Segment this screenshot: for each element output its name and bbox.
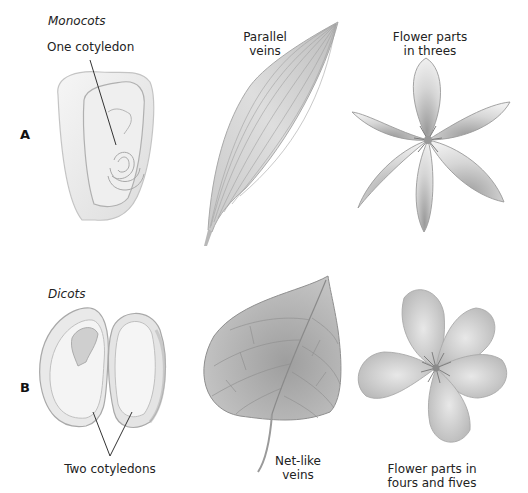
row-a-marker: A: [20, 127, 30, 142]
two-cotyledons-label: Two cotyledons: [64, 462, 156, 476]
flower-parts-fours-fives-line2: fours and fives: [387, 476, 476, 490]
flower-parts-threes-line2: in threes: [393, 44, 467, 58]
parallel-veins-label-line1: Parallel: [243, 30, 287, 44]
flower-parts-threes-line1: Flower parts: [393, 30, 467, 44]
dicots-group-title: Dicots: [48, 287, 85, 301]
net-like-veins-label: Net-like veins: [275, 454, 321, 482]
flower-parts-fours-fives-label: Flower parts in fours and fives: [387, 462, 476, 490]
one-cotyledon-label: One cotyledon: [47, 40, 134, 54]
net-like-veins-line1: Net-like: [275, 454, 321, 468]
corn-seed-illustration: [58, 60, 154, 220]
parallel-veins-label-line2: veins: [243, 44, 287, 58]
illustrations: [0, 0, 528, 493]
net-like-veins-line2: veins: [275, 468, 321, 482]
net-vein-leaf-illustration: [204, 276, 341, 472]
bean-seed-illustration: [40, 308, 166, 456]
row-b-marker: B: [20, 380, 30, 395]
flower-parts-fours-fives-line1: Flower parts in: [387, 462, 476, 476]
flower-parts-threes-label: Flower parts in threes: [393, 30, 467, 58]
monocots-group-title: Monocots: [48, 14, 106, 28]
lily-flower-illustration: [352, 58, 510, 232]
apple-blossom-illustration: [358, 290, 506, 442]
parallel-veins-label: Parallel veins: [243, 30, 287, 58]
